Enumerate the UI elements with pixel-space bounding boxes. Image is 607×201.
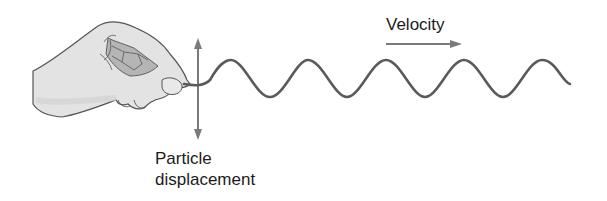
- particle-label-line2: displacement: [155, 169, 255, 190]
- displacement-arrow: [194, 38, 202, 140]
- particle-displacement-label: Particle displacement: [155, 148, 255, 190]
- wave-diagram: [0, 0, 607, 201]
- hand-illustration: [33, 22, 190, 117]
- particle-label-line1: Particle: [155, 148, 255, 169]
- velocity-arrow: [386, 40, 462, 48]
- velocity-label: Velocity: [386, 14, 445, 35]
- string-wave: [184, 60, 570, 97]
